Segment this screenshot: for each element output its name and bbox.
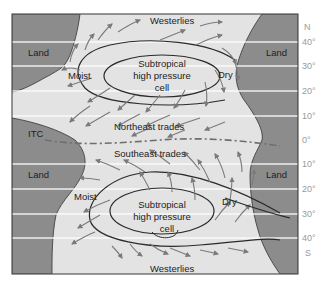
lat-10n: 10° [302,111,316,121]
north-label: N [304,22,311,32]
wind-circulation-diagram: Westerlies Westerlies Land Land Land Lan… [0,0,330,287]
land-nw-label: Land [28,47,49,58]
latitude-axis: N 40° 30° 20° 10° 0° 10° 20° 30° 40° S [302,22,316,258]
itc-label: ITC [28,128,43,139]
southeast-trades-label: Southeast trades [114,148,186,159]
dry-north-label: Dry [218,69,233,80]
south-high-label-1: Subtropical [138,199,186,210]
north-high-label-3: cell [155,82,169,93]
lat-20s: 20° [302,184,316,194]
south-high-label-3: cell [160,223,174,234]
land-se-label: Land [266,169,287,180]
land-ne-label: Land [266,47,287,58]
lat-30n: 30° [302,61,316,71]
lat-40s: 40° [302,233,316,243]
south-high-label-2: high pressure [133,211,191,222]
northeast-trades-label: Northeast trades [114,121,184,132]
land-sw-label: Land [28,169,49,180]
moist-north-label: Moist [68,70,91,81]
lat-20n: 20° [302,86,316,96]
lat-40n: 40° [302,37,316,47]
westerlies-south-label: Westerlies [150,263,194,274]
north-high-label-2: high pressure [133,70,191,81]
south-label: S [305,248,311,258]
lat-0: 0° [302,135,311,145]
lat-30s: 30° [302,209,316,219]
lat-10s: 10° [302,159,316,169]
westerlies-north-label: Westerlies [150,15,194,26]
dry-south-label: Dry [222,196,237,207]
north-high-label-1: Subtropical [138,58,186,69]
moist-south-label: Moist [74,191,97,202]
